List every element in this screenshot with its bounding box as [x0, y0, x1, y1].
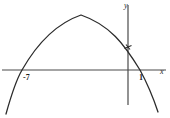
- x-axis-label: x: [159, 67, 164, 76]
- right-intercept-label: 1: [139, 73, 143, 82]
- parabola-curve: [6, 15, 158, 114]
- left-intercept-label: -7: [23, 73, 30, 82]
- y-axis-label: y: [123, 1, 128, 10]
- parabola-figure: y x -7 1: [0, 0, 170, 118]
- graph-canvas: y x -7 1: [0, 0, 170, 118]
